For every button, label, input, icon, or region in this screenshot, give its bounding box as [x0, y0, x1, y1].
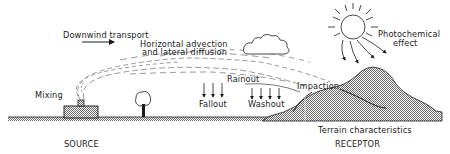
- hill-icon: [262, 67, 442, 121]
- plume-icon: [76, 50, 330, 99]
- factory-icon: [64, 100, 98, 118]
- label-terrain-characteristics: Terrain characteristics: [318, 126, 412, 135]
- label-fallout: Fallout: [199, 100, 227, 109]
- tree-icon: [125, 92, 172, 118]
- fallout-arrows: [204, 83, 222, 97]
- label-downwind-transport: Downwind transport: [63, 31, 149, 40]
- cloud-icon: [244, 34, 290, 54]
- rainout-line: [245, 84, 300, 92]
- label-lateral-diffusion: and lateral diffusion: [142, 48, 227, 57]
- label-mixing: Mixing: [35, 91, 63, 100]
- pollution-transport-diagram: Downwind transport Horizontal advection …: [0, 0, 450, 154]
- label-receptor: RECEPTOR: [335, 140, 380, 149]
- label-impaction: Impaction: [297, 82, 339, 91]
- label-source: SOURCE: [64, 140, 99, 149]
- washout-arrows: [252, 88, 279, 99]
- label-effect: effect: [393, 39, 417, 48]
- label-rainout: Rainout: [227, 75, 259, 84]
- label-washout: Washout: [248, 100, 285, 109]
- photochemical-arrows: [342, 37, 386, 63]
- sun-icon: [328, 3, 378, 39]
